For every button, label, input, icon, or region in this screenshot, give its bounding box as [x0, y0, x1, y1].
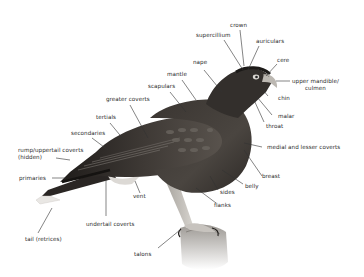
label-nape: nape	[193, 59, 207, 66]
label-flanks: flanks	[214, 202, 231, 209]
label-upper-mandible-culmen: upper mandible/ culmen	[292, 78, 339, 92]
label-tertials: tertials	[96, 114, 116, 121]
label-malar: malar	[278, 113, 294, 120]
label-crown: crown	[230, 22, 247, 29]
label-supercilium: supercillium	[196, 32, 231, 39]
label-undertail-coverts: undertail coverts	[86, 221, 134, 228]
label-mantle: mantle	[167, 71, 187, 78]
label-secondaries: secondaries	[71, 130, 105, 137]
label-medial-lesser-coverts: medial and lesser coverts	[267, 144, 340, 151]
label-scapulars: scapulars	[148, 83, 175, 90]
label-throat: throat	[266, 123, 283, 130]
label-vent: vent	[133, 193, 146, 200]
label-cere: cere	[277, 57, 289, 64]
label-sides: sides	[220, 189, 235, 196]
bird-anatomy-diagram: crown supercillium auriculars cere nape …	[0, 0, 364, 277]
label-rump-uppertail-coverts: rump/uppertail coverts (hidden)	[18, 147, 83, 161]
label-breast: breast	[262, 173, 280, 180]
label-primaries: primaries	[19, 175, 46, 182]
label-talons: talons	[134, 251, 151, 258]
label-tail-retrices: tail (retrices)	[25, 236, 62, 243]
label-belly: belly	[245, 183, 259, 190]
label-chin: chin	[278, 95, 290, 102]
label-auriculars: auriculars	[256, 38, 284, 45]
label-greater-coverts: greater coverts	[106, 96, 150, 103]
